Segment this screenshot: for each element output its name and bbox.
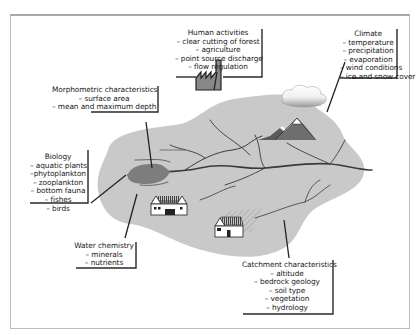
label-item: – birds — [30, 205, 86, 214]
label-human-activities: Human activities – clear cutting of fore… — [175, 29, 261, 72]
label-water-chemistry: Water chemistry – minerals – nutrients — [74, 242, 134, 268]
cloud-icon — [282, 85, 327, 107]
house-icon — [215, 217, 243, 237]
label-item: – nutrients — [74, 259, 134, 268]
label-biology: Biology – aquatic plants –phytoplankton … — [30, 153, 86, 213]
label-climate: Climate – temperature – precipitation – … — [340, 30, 396, 82]
label-item: – hydrology — [242, 304, 332, 313]
label-item: – ice and snow cover — [340, 73, 396, 82]
label-catchment-characteristics: Catchment characteristics – altitude – b… — [242, 261, 332, 313]
label-item: – mean and maximum depth — [52, 103, 156, 112]
label-morphometric-characteristics: Morphometric characteristics – surface a… — [52, 86, 156, 112]
label-item: – flow regulation — [175, 63, 261, 72]
farmhouse-icon — [151, 196, 187, 215]
